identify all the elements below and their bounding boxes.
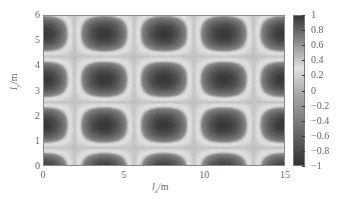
x-axis-label-unit: /m (158, 181, 169, 192)
x-tick-label: 10 (194, 170, 214, 180)
y-tick-label: 2 (28, 111, 40, 121)
colorbar-tick-label: −0.2 (311, 101, 329, 111)
y-tick-label: 1 (28, 136, 40, 146)
x-axis-label: lx/m (152, 181, 168, 195)
colorbar-tick-mark (302, 121, 305, 122)
colorbar-tick-mark (302, 91, 305, 92)
heatmap-plot-area (43, 15, 285, 166)
colorbar-tick-label: 0.6 (311, 40, 324, 50)
colorbar-tick-label: −0.6 (311, 131, 329, 141)
y-axis-label-sub: y (14, 84, 22, 87)
heatmap-canvas (44, 16, 284, 165)
x-tick-label: 5 (114, 170, 134, 180)
x-tick-label: 0 (33, 170, 53, 180)
colorbar-tick-label: −0.4 (311, 116, 329, 126)
colorbar-tick-label: 0.4 (311, 55, 324, 65)
colorbar-tick-mark (302, 45, 305, 46)
y-tick-label: 5 (28, 35, 40, 45)
colorbar-tick-label: −0.8 (311, 146, 329, 156)
colorbar-tick-mark (302, 15, 305, 16)
colorbar-tick-label: 0 (311, 86, 316, 96)
colorbar-tick-mark (302, 106, 305, 107)
y-axis-label: ly/m (8, 74, 22, 90)
colorbar-tick-label: 0.8 (311, 25, 324, 35)
y-tick-label: 6 (28, 10, 40, 20)
colorbar-tick-mark (302, 136, 305, 137)
colorbar-tick-mark (302, 60, 305, 61)
y-axis-label-unit: /m (8, 74, 19, 85)
colorbar-tick-label: 1 (311, 10, 316, 20)
x-tick-label: 15 (275, 170, 295, 180)
colorbar-tick-mark (302, 151, 305, 152)
colorbar-tick-mark (302, 75, 305, 76)
colorbar-tick-mark (302, 166, 305, 167)
colorbar-tick-mark (302, 30, 305, 31)
y-axis-label-var: l (8, 87, 19, 90)
colorbar-tick-label: 0.2 (311, 70, 324, 80)
colorbar-tick-label: −1 (311, 161, 322, 171)
y-tick-label: 4 (28, 60, 40, 70)
y-tick-label: 3 (28, 86, 40, 96)
